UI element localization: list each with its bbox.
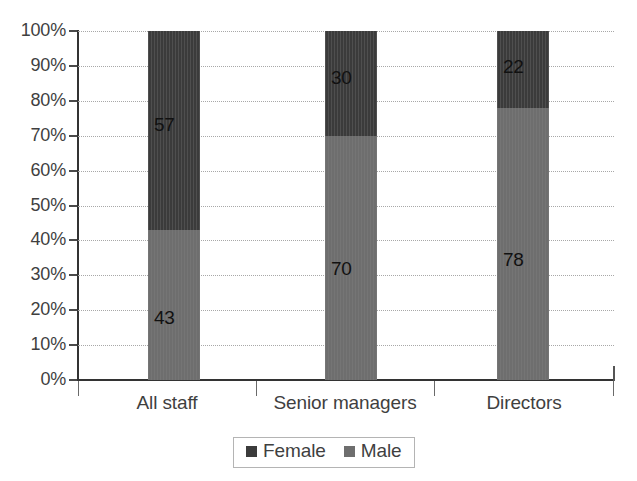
chart-legend: Female Male [233, 437, 415, 468]
bar-group-senior-managers[interactable]: 30 70 [325, 31, 377, 380]
y-axis-label: 100% [4, 20, 66, 41]
bar-segment-female[interactable]: 22 [497, 31, 549, 108]
bar-group-directors[interactable]: 22 78 [497, 31, 549, 380]
y-axis-label: 30% [4, 264, 66, 285]
bar-value-label: 30 [331, 68, 352, 87]
plot-area: 57 43 30 70 22 78 [78, 31, 614, 380]
y-axis-label: 70% [4, 125, 66, 146]
y-axis-label: 40% [4, 229, 66, 250]
bar-segment-male[interactable]: 43 [148, 230, 200, 380]
legend-item-male[interactable]: Male [344, 441, 402, 462]
y-axis-label: 50% [4, 195, 66, 216]
bar-value-label: 57 [154, 115, 175, 134]
y-axis-label: 10% [4, 334, 66, 355]
bar-segment-female[interactable]: 30 [325, 31, 377, 136]
y-axis-label: 80% [4, 90, 66, 111]
legend-label: Male [361, 441, 402, 462]
bar-value-label: 22 [503, 57, 524, 76]
y-axis-label: 0% [4, 369, 66, 390]
legend-swatch-icon [344, 446, 355, 457]
y-axis-label: 20% [4, 299, 66, 320]
y-axis-label: 60% [4, 160, 66, 181]
bar-value-label: 70 [331, 259, 352, 278]
bar-value-label: 78 [503, 250, 524, 269]
bar-group-all-staff[interactable]: 57 43 [148, 31, 200, 380]
x-axis-labels: All staff Senior managers Directors [78, 392, 614, 422]
bar-segment-male[interactable]: 70 [325, 136, 377, 380]
x-axis-label-senior-managers: Senior managers [256, 392, 434, 414]
bar-segment-male[interactable]: 78 [497, 108, 549, 380]
x-axis-label-directors: Directors [434, 392, 614, 414]
y-axis-labels: 100% 90% 80% 70% 60% 50% 40% 30% 20% 10%… [0, 31, 66, 380]
bar-value-label: 43 [154, 308, 175, 327]
x-axis-label-all-staff: All staff [78, 392, 256, 414]
legend-item-female[interactable]: Female [246, 441, 326, 462]
legend-swatch-icon [246, 446, 257, 457]
legend-label: Female [263, 441, 326, 462]
y-axis-label: 90% [4, 55, 66, 76]
bar-segment-female[interactable]: 57 [148, 31, 200, 230]
